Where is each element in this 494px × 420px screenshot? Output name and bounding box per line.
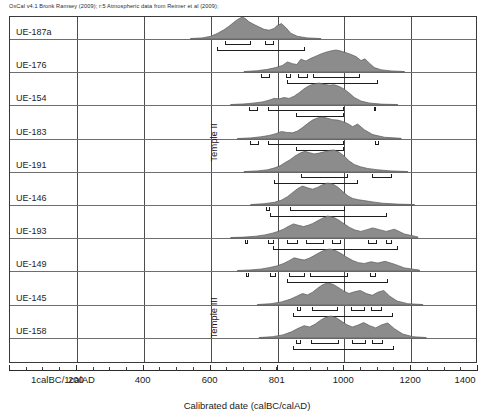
x-axis-minor-tick — [427, 367, 428, 371]
distribution-curve — [10, 182, 478, 206]
x-axis-minor-tick — [226, 367, 227, 371]
group-label-temple-iii: Temple III — [208, 282, 219, 354]
x-axis-minor-tick — [260, 367, 261, 371]
row-label-ue-187a: UE-187a — [16, 27, 52, 37]
distribution-curve — [10, 16, 478, 40]
range-95-bracket — [293, 346, 395, 350]
range-68-bracket — [296, 340, 301, 344]
range-68-bracket — [301, 174, 348, 178]
distribution-curve — [10, 149, 478, 173]
range-68-bracket — [289, 273, 305, 277]
distribution-curve — [10, 82, 478, 106]
x-axis-minor-tick — [310, 367, 311, 371]
x-axis-minor-tick — [59, 367, 60, 371]
x-axis-tick-label: 1200 — [400, 374, 421, 385]
group-label-temple-ii: Temple II — [208, 90, 219, 195]
x-axis-tick-label: 1000 — [333, 374, 354, 385]
row-label-ue-158: UE-158 — [16, 326, 47, 336]
range-mark — [266, 207, 270, 211]
range-mark — [374, 107, 377, 111]
distribution-curve — [10, 282, 478, 306]
distribution-curve — [10, 49, 478, 73]
x-axis-minor-tick — [176, 367, 177, 371]
range-68-bracket — [268, 141, 344, 145]
x-axis-major-tick — [343, 365, 344, 371]
range-68-bracket — [311, 340, 339, 344]
x-axis-tick-label: 801 — [269, 374, 285, 385]
row-label-ue-149: UE-149 — [16, 259, 47, 269]
x-axis-major-tick — [210, 365, 211, 371]
x-axis-minor-tick — [159, 367, 160, 371]
x-axis-major-tick — [477, 365, 478, 371]
x-axis-major-tick — [76, 365, 77, 371]
distribution-curve — [10, 116, 478, 140]
range-68-bracket — [268, 107, 344, 111]
x-axis-minor-tick — [327, 367, 328, 371]
row-label-ue-154: UE-154 — [16, 93, 47, 103]
distribution-curve — [10, 315, 478, 339]
range-mark — [375, 141, 379, 145]
distribution-curve — [10, 248, 478, 272]
x-axis-tick-label: 1400 — [454, 374, 475, 385]
x-axis-major-tick — [143, 365, 144, 371]
range-68-bracket — [351, 307, 365, 311]
x-axis-minor-tick — [460, 367, 461, 371]
range-68-bracket — [265, 41, 274, 45]
row-label-ue-146: UE-146 — [16, 193, 47, 203]
range-68-bracket — [297, 307, 301, 311]
range-68-bracket — [290, 207, 345, 211]
range-mark — [246, 273, 249, 277]
x-axis-minor-tick — [293, 367, 294, 371]
range-68-bracket — [306, 240, 325, 244]
x-axis-tick-label: 400 — [135, 374, 151, 385]
range-68-bracket — [368, 240, 377, 244]
range-mark — [245, 240, 248, 244]
x-axis-minor-tick — [126, 367, 127, 371]
x-axis-minor-tick — [243, 367, 244, 371]
range-68-bracket — [312, 307, 339, 311]
range-68-bracket — [372, 340, 383, 344]
row-label-ue-145: UE-145 — [16, 293, 47, 303]
range-mark — [370, 273, 375, 277]
plot-area — [9, 16, 477, 363]
x-axis-minor-tick — [276, 367, 277, 371]
range-68-bracket — [250, 141, 259, 145]
range-68-bracket — [286, 74, 291, 78]
x-axis-minor-tick — [93, 367, 94, 371]
range-68-bracket — [287, 240, 298, 244]
x-axis-minor-tick — [377, 367, 378, 371]
range-68-bracket — [225, 41, 251, 45]
x-axis-minor-tick — [26, 367, 27, 371]
x-axis-major-tick — [9, 365, 10, 371]
x-axis-minor-tick — [444, 367, 445, 371]
row-label-ue-183: UE-183 — [16, 127, 47, 137]
x-axis-title: Calibrated date (calBC/calAD) — [0, 400, 494, 411]
x-axis-minor-tick — [193, 367, 194, 371]
row-label-ue-193: UE-193 — [16, 226, 47, 236]
row-label-ue-191: UE-191 — [16, 160, 47, 170]
range-68-bracket — [371, 307, 382, 311]
range-68-bracket — [298, 74, 308, 78]
x-axis-minor-tick — [109, 367, 110, 371]
range-68-bracket — [261, 74, 270, 78]
x-axis-tick-label: 200 — [68, 374, 84, 385]
x-axis-minor-tick — [393, 367, 394, 371]
range-68-bracket — [372, 174, 392, 178]
x-axis-minor-tick — [42, 367, 43, 371]
row-label-ue-176: UE-176 — [16, 60, 47, 70]
range-68-bracket — [249, 107, 258, 111]
distribution-curve — [10, 215, 478, 239]
range-68-bracket — [313, 74, 360, 78]
range-68-bracket — [268, 240, 274, 244]
range-68-bracket — [386, 240, 392, 244]
x-axis-minor-tick — [360, 367, 361, 371]
x-axis-tick-label: 600 — [202, 374, 218, 385]
range-68-bracket — [310, 273, 349, 277]
x-axis-major-tick — [410, 365, 411, 371]
range-68-bracket — [332, 240, 341, 244]
oxcal-version-note: OxCal v4.1 Bronk Ramsey (2009); r:5 Atmo… — [9, 3, 219, 9]
range-68-bracket — [352, 340, 366, 344]
range-68-bracket — [270, 273, 276, 277]
x-axis-tick-label: 1calBC/1calAD — [31, 374, 95, 385]
